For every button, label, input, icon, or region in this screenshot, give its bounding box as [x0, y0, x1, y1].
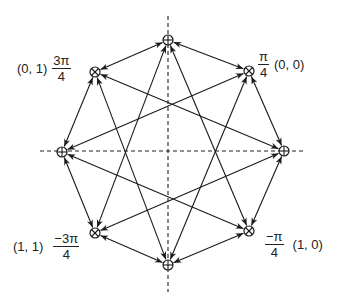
transition-arrow [100, 42, 162, 69]
bits-label: (1, 0) [293, 238, 323, 251]
phase-numerator: π [258, 50, 269, 65]
phase-denominator: 4 [271, 245, 278, 259]
transition-arrow [170, 46, 246, 226]
phase-denominator: 4 [58, 69, 65, 83]
transition-arrow [64, 158, 92, 228]
circle-plus-icon [279, 146, 289, 156]
phase-fraction: −π 4 [265, 230, 284, 259]
circle-times-icon [244, 66, 254, 76]
transition-arrow [170, 77, 246, 260]
transition-arrow [101, 153, 279, 230]
label-upper-right: π 4 (0, 0) [258, 50, 304, 79]
phase-denominator: 4 [63, 247, 70, 261]
constellation-diagram: (0, 1) 3π 4 π 4 (0, 0) (1, 1) −3π 4 −π 4… [0, 0, 342, 299]
phase-numerator: −3π [53, 232, 79, 247]
phase-numerator: −π [265, 230, 284, 245]
transition-arrow [251, 76, 281, 145]
label-upper-left: (0, 1) 3π 4 [17, 54, 71, 83]
bits-label: (0, 0) [274, 58, 304, 71]
transition-arrow [101, 74, 279, 148]
circle-times-icon [90, 228, 100, 238]
phase-numerator: 3π [52, 54, 70, 69]
phase-denominator: 4 [260, 65, 267, 79]
phase-fraction: π 4 [258, 50, 269, 79]
bits-label: (0, 1) [17, 62, 47, 75]
transition-arrow [68, 154, 244, 228]
transition-arrow [97, 46, 166, 228]
circle-times-icon [90, 67, 100, 77]
transition-arrow [97, 78, 166, 260]
circle-plus-icon [163, 35, 173, 45]
circle-plus-icon [163, 260, 173, 270]
label-lower-right: −π 4 (1, 0) [265, 230, 323, 259]
circle-times-icon [244, 226, 254, 236]
transition-arrow [174, 233, 244, 262]
bits-label: (1, 1) [13, 240, 43, 253]
circle-plus-icon [57, 147, 67, 157]
transition-arrow [174, 42, 244, 69]
label-lower-left: (1, 1) −3π 4 [13, 232, 79, 261]
phase-fraction: −3π 4 [53, 232, 79, 261]
transition-arrow [64, 78, 92, 147]
transition-arrow [68, 73, 244, 149]
constellation-points [57, 35, 289, 270]
phase-fraction: 3π 4 [52, 54, 70, 83]
transition-arrow [251, 156, 281, 225]
transition-arrow [100, 235, 162, 262]
